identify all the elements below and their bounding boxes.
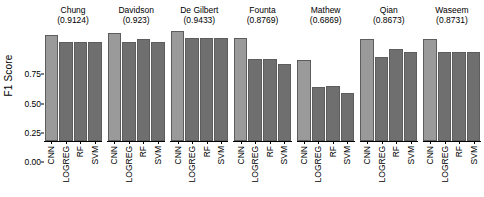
panel-plot-area xyxy=(297,26,355,142)
bar-cnn xyxy=(297,60,311,141)
chart-panel-qian: Qian (0.8673)CNNLOGREGRFSVM xyxy=(360,5,418,195)
x-axis-tick-mark xyxy=(445,142,446,144)
bar-logreg xyxy=(438,52,452,141)
x-axis-tick-label: LOGREG xyxy=(377,146,387,182)
x-axis-tick-rf: RF xyxy=(73,142,88,195)
x-axis-tick-mark xyxy=(474,142,475,144)
panel-group: Chung (0.9124)CNNLOGREGRFSVMDavidson (0.… xyxy=(44,5,481,195)
bar-svm xyxy=(88,42,102,141)
x-axis-tick-svm: SVM xyxy=(403,142,418,195)
bar-svm xyxy=(151,42,165,141)
x-axis-tick-cnn: CNN xyxy=(423,142,438,195)
x-axis-tick-rf: RF xyxy=(389,142,404,195)
x-axis-tick-label: LOGREG xyxy=(187,146,197,182)
x-axis-tick-mark xyxy=(367,142,368,144)
panel-plot-area xyxy=(107,26,165,142)
x-axis-label-group: CNNLOGREGRFSVM xyxy=(233,142,291,195)
x-axis-tick-label: CNN xyxy=(173,146,183,164)
x-axis-tick-mark xyxy=(430,142,431,144)
x-axis-tick-mark xyxy=(207,142,208,144)
x-axis-tick-cnn: CNN xyxy=(170,142,185,195)
x-axis-tick-label: RF xyxy=(328,146,338,157)
bar-cnn xyxy=(108,33,122,141)
x-axis-tick-label: CNN xyxy=(109,146,119,164)
x-axis-tick-label: LOGREG xyxy=(250,146,260,182)
x-axis-tick-label: CNN xyxy=(362,146,372,164)
bar-logreg xyxy=(375,57,389,141)
x-axis-tick-mark xyxy=(396,142,397,144)
x-axis-tick-mark xyxy=(255,142,256,144)
panel-title: Qian (0.8673) xyxy=(360,5,418,26)
x-axis-tick-label: CNN xyxy=(425,146,435,164)
y-axis-tick-label: 0.75 xyxy=(24,69,41,79)
x-axis-tick-mark xyxy=(221,142,222,144)
panel-title: Davidson (0.923) xyxy=(107,5,165,26)
x-axis-tick-svm: SVM xyxy=(466,142,481,195)
x-axis-tick-logreg: LOGREG xyxy=(311,142,326,195)
bar-rf xyxy=(137,39,151,141)
x-axis-tick-mark xyxy=(95,142,96,144)
x-axis-tick-mark xyxy=(270,142,271,144)
x-axis-tick-rf: RF xyxy=(136,142,151,195)
bar-cnn xyxy=(171,31,185,141)
x-axis-tick-logreg: LOGREG xyxy=(59,142,74,195)
bar-cnn xyxy=(423,39,437,141)
panel-title: De Gilbert (0.9433) xyxy=(170,5,228,26)
x-axis-tick-label: LOGREG xyxy=(440,146,450,182)
x-axis-tick-logreg: LOGREG xyxy=(374,142,389,195)
x-axis-tick-label: SVM xyxy=(406,146,416,164)
panel-title: Founta (0.8769) xyxy=(233,5,291,26)
x-axis-tick-mark xyxy=(192,142,193,144)
x-axis-tick-label: LOGREG xyxy=(313,146,323,182)
x-axis-tick-label: SVM xyxy=(469,146,479,164)
x-axis-tick-mark xyxy=(66,142,67,144)
x-axis-tick-rf: RF xyxy=(199,142,214,195)
x-axis-tick-label: RF xyxy=(138,146,148,157)
x-axis-tick-label: LOGREG xyxy=(124,146,134,182)
x-axis-tick-cnn: CNN xyxy=(297,142,312,195)
x-axis-label-group: CNNLOGREGRFSVM xyxy=(170,142,228,195)
x-axis-tick-cnn: CNN xyxy=(44,142,59,195)
bar-svm xyxy=(404,52,418,141)
x-axis-tick-label: RF xyxy=(391,146,401,157)
x-axis-tick-label: SVM xyxy=(153,146,163,164)
chart-panel-waseem: Waseem (0.8731)CNNLOGREGRFSVM xyxy=(423,5,481,195)
panel-title: Waseem (0.8731) xyxy=(423,5,481,26)
x-axis-tick-rf: RF xyxy=(262,142,277,195)
bar-cnn xyxy=(45,35,59,141)
x-axis-tick-label: CNN xyxy=(299,146,309,164)
x-axis-tick-mark xyxy=(51,142,52,144)
x-axis-tick-mark xyxy=(284,142,285,144)
panel-title: Chung (0.9124) xyxy=(44,5,102,26)
bar-svm xyxy=(214,38,228,141)
x-axis-tick-label: RF xyxy=(454,146,464,157)
x-axis-tick-mark xyxy=(129,142,130,144)
x-axis-tick-logreg: LOGREG xyxy=(185,142,200,195)
x-axis-tick-mark xyxy=(304,142,305,144)
bar-cnn xyxy=(360,39,374,141)
x-axis-tick-label: RF xyxy=(202,146,212,157)
panel-title: Mathew (0.6869) xyxy=(297,5,355,26)
panel-plot-area xyxy=(44,26,102,142)
x-axis-tick-mark xyxy=(318,142,319,144)
x-axis-tick-svm: SVM xyxy=(277,142,292,195)
bar-svm xyxy=(341,93,355,141)
bar-logreg xyxy=(185,38,199,141)
x-axis-tick-logreg: LOGREG xyxy=(122,142,137,195)
x-axis-tick-logreg: LOGREG xyxy=(248,142,263,195)
panel-plot-area xyxy=(423,26,481,142)
bar-rf xyxy=(263,59,277,141)
x-axis-tick-label: RF xyxy=(265,146,275,157)
x-axis-label-group: CNNLOGREGRFSVM xyxy=(44,142,102,195)
x-axis-label-group: CNNLOGREGRFSVM xyxy=(360,142,418,195)
x-axis-tick-mark xyxy=(459,142,460,144)
y-axis-label-text: F1 Score xyxy=(3,54,14,96)
x-axis-tick-svm: SVM xyxy=(88,142,103,195)
bar-logreg xyxy=(122,42,136,141)
x-axis-label-group: CNNLOGREGRFSVM xyxy=(297,142,355,195)
x-axis-tick-label: RF xyxy=(75,146,85,157)
x-axis-tick-label: LOGREG xyxy=(61,146,71,182)
bar-rf xyxy=(326,86,340,141)
x-axis-tick-mark xyxy=(80,142,81,144)
x-axis-tick-mark xyxy=(411,142,412,144)
